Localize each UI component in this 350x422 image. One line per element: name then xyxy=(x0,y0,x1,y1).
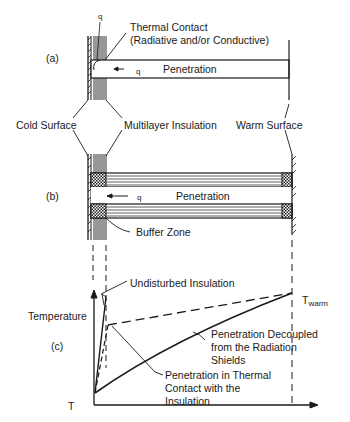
thermal-contact-label: Thermal Contact xyxy=(130,21,208,33)
contact-label-line3: Insulation xyxy=(165,395,210,407)
undisturbed-insulation-label: Undisturbed Insulation xyxy=(130,277,234,289)
penetration-label-a: Penetration xyxy=(163,63,217,75)
decoupled-label-line2: from the Radiation xyxy=(211,341,297,353)
heat-flow-label-a: q xyxy=(136,66,140,78)
panel-b-graphic xyxy=(73,130,296,405)
y-axis-temperature-label: Temperature xyxy=(28,310,87,322)
contact-label-line1: Penetration in Thermal xyxy=(165,369,271,381)
heat-flow-label-b: q xyxy=(137,192,141,204)
decoupled-label-line3: Shields xyxy=(211,354,245,366)
multilayer-insulation-label: Multilayer Insulation xyxy=(124,119,217,131)
contact-label-line2: Contact with the xyxy=(165,382,240,394)
mli-penetration-diagram: (a) (b) (c) q Thermal Contact (Radiative… xyxy=(0,0,350,422)
panel-b-label: (b) xyxy=(46,190,59,202)
t-warm-label: Twarm xyxy=(302,294,328,308)
t-warm-subscript: warm xyxy=(308,299,328,308)
penetration-label-b: Penetration xyxy=(176,190,230,202)
panel-c-label: (c) xyxy=(51,340,63,352)
buffer-zone-label: Buffer Zone xyxy=(136,226,191,238)
x-origin-t-label: T xyxy=(68,400,74,412)
warm-surface-label: Warm Surface xyxy=(236,119,303,131)
cold-surface-label: Cold Surface xyxy=(16,119,77,131)
panel-a-label: (a) xyxy=(46,52,59,64)
heat-flux-symbol-top: q xyxy=(98,11,102,23)
thermal-contact-sublabel: (Radiative and/or Conductive) xyxy=(130,34,269,46)
decoupled-label-line1: Penetration Decoupled xyxy=(211,328,318,340)
